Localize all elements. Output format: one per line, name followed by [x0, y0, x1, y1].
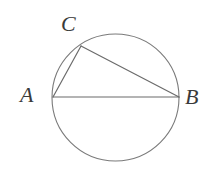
- vertex-label-b: B: [185, 86, 198, 108]
- segment-cb: [81, 46, 179, 97]
- vertex-label-a: A: [20, 84, 33, 106]
- vertex-label-c: C: [61, 13, 76, 35]
- geometry-figure: C A B: [0, 0, 214, 169]
